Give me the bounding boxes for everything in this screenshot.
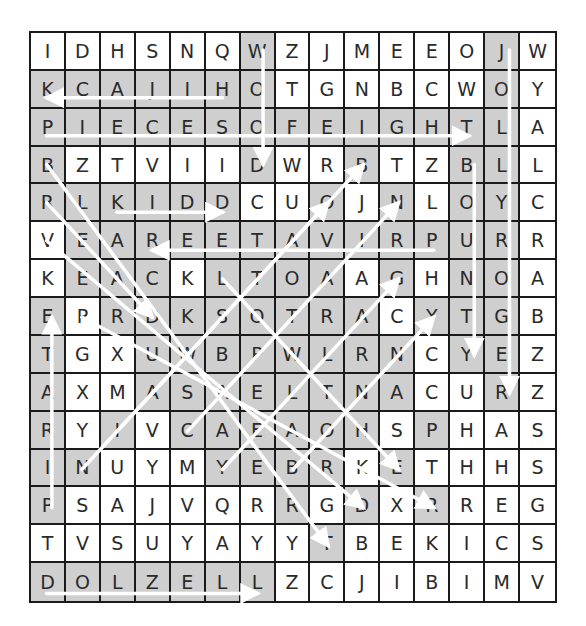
grid-cell[interactable]: J: [310, 33, 345, 71]
grid-cell[interactable]: I: [380, 563, 415, 601]
grid-cell[interactable]: T: [31, 336, 66, 374]
grid-cell[interactable]: L: [485, 109, 520, 147]
grid-cell[interactable]: B: [206, 336, 241, 374]
grid-cell[interactable]: A: [345, 298, 380, 336]
grid-cell[interactable]: M: [485, 563, 520, 601]
grid-cell[interactable]: E: [171, 563, 206, 601]
grid-cell[interactable]: E: [310, 109, 345, 147]
grid-cell[interactable]: R: [31, 412, 66, 450]
grid-cell[interactable]: R: [310, 298, 345, 336]
grid-cell[interactable]: B: [345, 147, 380, 185]
grid-cell[interactable]: W: [276, 147, 311, 185]
grid-cell[interactable]: D: [136, 298, 171, 336]
grid-cell[interactable]: W: [520, 33, 555, 71]
grid-cell[interactable]: C: [136, 109, 171, 147]
grid-cell[interactable]: I: [66, 109, 101, 147]
grid-cell[interactable]: R: [31, 184, 66, 222]
grid-cell[interactable]: R: [136, 222, 171, 260]
grid-cell[interactable]: M: [345, 33, 380, 71]
grid-cell[interactable]: A: [136, 374, 171, 412]
grid-cell[interactable]: T: [450, 298, 485, 336]
grid-cell[interactable]: T: [276, 71, 311, 109]
grid-cell[interactable]: V: [31, 222, 66, 260]
grid-cell[interactable]: Q: [206, 33, 241, 71]
grid-cell[interactable]: I: [171, 71, 206, 109]
grid-cell[interactable]: E: [380, 450, 415, 488]
grid-cell[interactable]: B: [345, 525, 380, 563]
grid-cell[interactable]: G: [380, 109, 415, 147]
grid-cell[interactable]: G: [310, 487, 345, 525]
grid-cell[interactable]: Y: [485, 184, 520, 222]
grid-cell[interactable]: I: [206, 147, 241, 185]
grid-cell[interactable]: W: [450, 71, 485, 109]
grid-cell[interactable]: Y: [136, 450, 171, 488]
grid-cell[interactable]: W: [171, 336, 206, 374]
grid-cell[interactable]: T: [450, 109, 485, 147]
grid-cell[interactable]: D: [241, 147, 276, 185]
grid-cell[interactable]: J: [345, 184, 380, 222]
grid-cell[interactable]: E: [206, 222, 241, 260]
grid-cell[interactable]: S: [206, 109, 241, 147]
grid-cell[interactable]: C: [136, 260, 171, 298]
grid-cell[interactable]: C: [171, 412, 206, 450]
grid-cell[interactable]: N: [450, 260, 485, 298]
grid-cell[interactable]: I: [31, 450, 66, 488]
grid-cell[interactable]: S: [520, 450, 555, 488]
grid-cell[interactable]: Z: [276, 563, 311, 601]
grid-cell[interactable]: S: [520, 525, 555, 563]
grid-cell[interactable]: K: [101, 184, 136, 222]
grid-cell[interactable]: O: [485, 260, 520, 298]
grid-cell[interactable]: A: [520, 260, 555, 298]
grid-cell[interactable]: S: [380, 412, 415, 450]
grid-cell[interactable]: U: [136, 525, 171, 563]
grid-cell[interactable]: B: [276, 450, 311, 488]
grid-cell[interactable]: R: [485, 222, 520, 260]
grid-cell[interactable]: A: [520, 109, 555, 147]
grid-cell[interactable]: Z: [66, 147, 101, 185]
grid-cell[interactable]: L: [520, 147, 555, 185]
grid-cell[interactable]: H: [206, 71, 241, 109]
grid-cell[interactable]: Y: [520, 71, 555, 109]
grid-cell[interactable]: H: [101, 33, 136, 71]
grid-cell[interactable]: I: [171, 147, 206, 185]
grid-cell[interactable]: C: [415, 374, 450, 412]
grid-cell[interactable]: C: [66, 71, 101, 109]
grid-cell[interactable]: O: [241, 71, 276, 109]
grid-cell[interactable]: N: [380, 184, 415, 222]
grid-cell[interactable]: Z: [520, 374, 555, 412]
grid-cell[interactable]: J: [345, 563, 380, 601]
grid-cell[interactable]: V: [136, 147, 171, 185]
grid-cell[interactable]: Y: [450, 336, 485, 374]
grid-cell[interactable]: O: [450, 33, 485, 71]
grid-cell[interactable]: Y: [241, 525, 276, 563]
grid-cell[interactable]: K: [345, 450, 380, 488]
grid-cell[interactable]: T: [310, 374, 345, 412]
grid-cell[interactable]: E: [415, 33, 450, 71]
grid-cell[interactable]: D: [31, 563, 66, 601]
grid-cell[interactable]: C: [380, 298, 415, 336]
grid-cell[interactable]: R: [520, 222, 555, 260]
grid-cell[interactable]: A: [101, 71, 136, 109]
grid-cell[interactable]: I: [101, 412, 136, 450]
grid-cell[interactable]: H: [415, 260, 450, 298]
grid-cell[interactable]: C: [310, 563, 345, 601]
grid-cell[interactable]: E: [101, 109, 136, 147]
grid-cell[interactable]: E: [241, 450, 276, 488]
grid-cell[interactable]: O: [241, 298, 276, 336]
grid-cell[interactable]: K: [31, 260, 66, 298]
grid-cell[interactable]: A: [206, 525, 241, 563]
grid-cell[interactable]: S: [101, 525, 136, 563]
grid-cell[interactable]: A: [310, 260, 345, 298]
grid-cell[interactable]: R: [380, 222, 415, 260]
grid-cell[interactable]: O: [485, 71, 520, 109]
grid-cell[interactable]: H: [345, 412, 380, 450]
grid-cell[interactable]: T: [101, 147, 136, 185]
grid-cell[interactable]: Y: [415, 298, 450, 336]
grid-cell[interactable]: A: [206, 374, 241, 412]
grid-cell[interactable]: T: [380, 147, 415, 185]
grid-cell[interactable]: R: [485, 374, 520, 412]
grid-cell[interactable]: P: [66, 298, 101, 336]
grid-cell[interactable]: K: [171, 260, 206, 298]
grid-cell[interactable]: O: [276, 260, 311, 298]
grid-cell[interactable]: R: [415, 487, 450, 525]
